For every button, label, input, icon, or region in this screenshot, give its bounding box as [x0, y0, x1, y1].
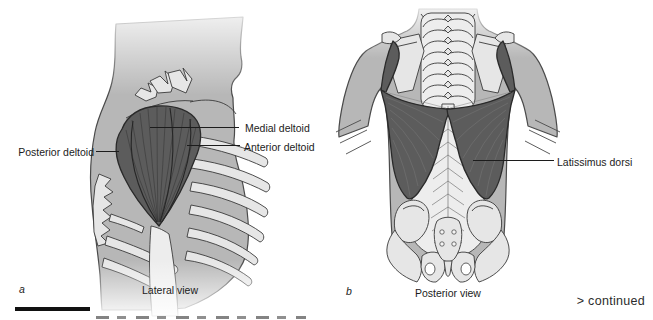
- coccyx: [444, 261, 452, 276]
- label-medial-deltoid: Medial deltoid: [245, 122, 310, 134]
- leader-posterior-deltoid: [96, 151, 119, 152]
- label-latissimus-dorsi: Latissimus dorsi: [557, 156, 632, 168]
- caption-lateral-view: Lateral view: [118, 284, 222, 296]
- label-anterior-deltoid: Anterior deltoid: [244, 141, 315, 153]
- leader-anterior-deltoid: [187, 145, 240, 146]
- panel-letter-a: a: [19, 283, 25, 295]
- lateral-view-illustration: [0, 0, 330, 320]
- panel-letter-b: b: [346, 285, 352, 297]
- leader-medial-deltoid: [150, 127, 239, 128]
- caption-posterior-view: Posterior view: [396, 287, 500, 299]
- clipped-caption-text-remainder: [96, 316, 306, 319]
- figure-caption-bar: [15, 307, 90, 311]
- leader-latissimus-dorsi: [473, 160, 554, 161]
- label-posterior-deltoid: Posterior deltoid: [10, 146, 94, 158]
- continued-note: > continued: [540, 294, 645, 308]
- figure-canvas: Posterior deltoid Medial deltoid Anterio…: [0, 0, 653, 320]
- spine-and-ribs: [421, 13, 475, 109]
